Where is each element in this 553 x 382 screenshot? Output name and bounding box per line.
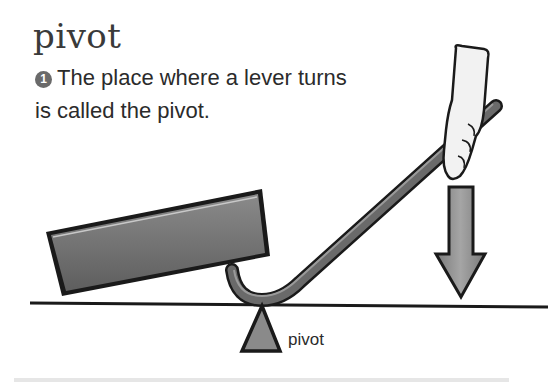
- ground-line: [30, 303, 548, 307]
- pivot-label: pivot: [288, 330, 324, 350]
- lever-diagram: [0, 0, 553, 382]
- pivot-triangle-icon: [242, 306, 280, 351]
- down-arrow-icon: [436, 187, 485, 297]
- divider: [14, 378, 509, 382]
- hand-icon: [444, 45, 489, 179]
